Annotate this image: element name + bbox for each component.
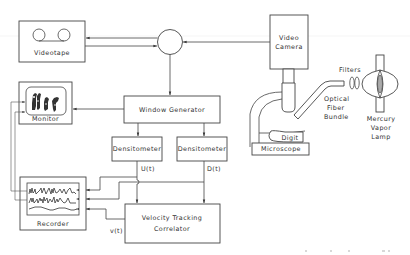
microscope-objective — [282, 83, 295, 112]
velocity-correlator-label-line1: Velocity Tracking — [142, 214, 203, 222]
densitometer-upstream-label: Densitometer — [113, 145, 161, 153]
monitor-label: Monitor — [32, 115, 59, 123]
optical-fiber-label-line2: Fiber — [327, 104, 345, 112]
video-camera-label-line1: Video — [279, 34, 299, 42]
camera-lens-tube — [283, 69, 294, 84]
densitometer-upstream-block: Densitometer — [112, 137, 162, 161]
video-switch-node — [158, 30, 183, 55]
lamp-label-line2: Vapor — [371, 124, 391, 132]
velocity-correlator-label-line2: Correlator — [154, 225, 190, 233]
velocity-to-recorder-arrow — [86, 209, 125, 219]
window-generator-label: Window Generator — [139, 106, 205, 114]
lamp-label-line1: Mercury — [367, 115, 396, 123]
upstream-signal-label: U(t) — [141, 165, 155, 173]
window-generator-block: Window Generator — [124, 96, 220, 123]
lamp-arc — [378, 75, 383, 93]
densitometer-downstream-block: Densitometer — [177, 137, 227, 161]
videotape-block: Videotape — [19, 21, 85, 62]
filter-lens-1 — [350, 77, 354, 89]
microscope-illustration: Digit Microscope — [250, 83, 309, 155]
filter-lens-2 — [355, 77, 359, 89]
recorder-block: Recorder — [20, 177, 86, 230]
optical-fiber-label-line3: Bundle — [324, 113, 349, 121]
downstream-to-recorder-arrow — [86, 182, 204, 199]
video-camera-label-line2: Camera — [275, 43, 302, 51]
densitometer-downstream-label: Densitometer — [178, 145, 226, 153]
microscope-label: Microscope — [261, 145, 301, 153]
video-camera-block: Video Camera — [270, 15, 308, 84]
velocity-tracking-system-diagram: Videotape Monitor Window Generator — [0, 0, 410, 255]
scan-residue — [305, 250, 390, 252]
digit-label: Digit — [281, 134, 298, 142]
velocity-signal-label: v(t) — [110, 227, 123, 235]
filters-label: Filters — [339, 66, 361, 74]
downstream-signal-label: D(t) — [207, 165, 221, 173]
monitor-block: Monitor — [19, 82, 72, 124]
velocity-correlator-block: Velocity Tracking Correlator — [125, 204, 220, 243]
optical-fiber-label-line1: Optical — [324, 95, 349, 103]
lamp-label-line3: Lamp — [371, 133, 390, 141]
optical-fiber-bundle: Optical Fiber Bundle — [294, 81, 349, 121]
mercury-vapor-lamp: Mercury Vapor Lamp — [362, 55, 398, 141]
videotape-label: Videotape — [34, 49, 70, 57]
upstream-to-recorder-arrow — [86, 177, 137, 190]
recorder-label: Recorder — [37, 220, 69, 228]
